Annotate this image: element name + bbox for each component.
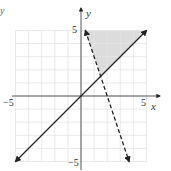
y-tick-max: 5 xyxy=(72,24,77,35)
y-tick-min: −5 xyxy=(68,157,79,168)
x-tick-min: −5 xyxy=(3,97,14,108)
y-axis-label: y xyxy=(85,7,91,19)
coordinate-graph: −55x5−5y xyxy=(0,0,171,171)
x-tick-max: 5 xyxy=(141,97,146,108)
corner-label: y xyxy=(0,5,4,16)
x-axis-label: x xyxy=(150,100,156,112)
